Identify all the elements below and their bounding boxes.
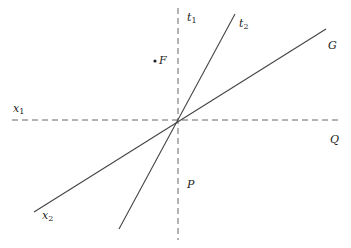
label-q: Q bbox=[330, 133, 339, 146]
point-f bbox=[153, 59, 156, 62]
line-t2 bbox=[119, 14, 235, 229]
label-g: G bbox=[328, 39, 337, 52]
label-f: F bbox=[158, 54, 167, 67]
diagram-canvas: t1 t2 G F x1 Q P x2 bbox=[0, 0, 351, 248]
label-x2: x2 bbox=[42, 209, 53, 223]
label-p: P bbox=[186, 178, 195, 191]
line-g bbox=[34, 29, 326, 212]
label-x1: x1 bbox=[13, 102, 24, 116]
label-t1: t1 bbox=[187, 11, 197, 25]
label-t2: t2 bbox=[239, 17, 249, 31]
